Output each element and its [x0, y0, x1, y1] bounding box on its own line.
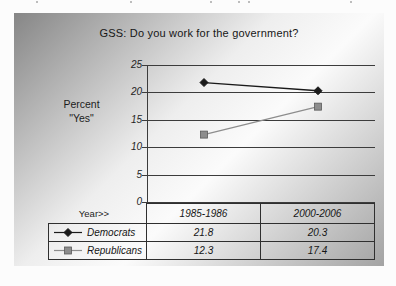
cropped-text-artifact — [130, 1, 132, 3]
chart-title: GSS: Do you work for the government? — [14, 27, 384, 39]
x-axis-row-label: Year>> — [48, 203, 146, 223]
y-tick-label-15: 15 — [108, 114, 142, 125]
chart-area: GSS: Do you work for the government? Per… — [14, 13, 384, 266]
category-header-1985-1986: 1985-1986 — [146, 203, 261, 224]
category-header-2000-2006: 2000-2006 — [260, 203, 375, 224]
republicans-line-marker-icon — [53, 245, 83, 256]
value-republicans-1985-1986: 12.3 — [146, 241, 261, 260]
value-republicans-2000-2006: 17.4 — [260, 241, 375, 260]
legend-item-republicans: Republicans — [48, 241, 147, 260]
y-axis-title-line1: Percent — [44, 97, 119, 111]
page: { "chart_data": { "type": "line", "title… — [0, 0, 396, 286]
legend-label-republicans: Republicans — [87, 245, 142, 256]
cropped-text-artifact — [238, 1, 240, 3]
value-democrats-1985-1986: 21.8 — [146, 223, 261, 242]
cropped-text-artifact — [210, 1, 212, 3]
plot-area — [141, 65, 375, 204]
y-tick-label-25: 25 — [108, 59, 142, 70]
cropped-text-artifact — [248, 1, 250, 3]
legend-item-democrats: Democrats — [48, 223, 147, 242]
y-tick-label-5: 5 — [108, 169, 142, 180]
legend-label-democrats: Democrats — [87, 227, 135, 238]
democrats-line-marker-icon — [53, 227, 83, 238]
value-democrats-2000-2006: 20.3 — [260, 223, 375, 242]
y-tick-label-10: 10 — [108, 141, 142, 152]
cropped-text-artifact — [36, 1, 38, 3]
cropped-text-artifact — [350, 1, 352, 3]
y-tick-label-20: 20 — [108, 86, 142, 97]
